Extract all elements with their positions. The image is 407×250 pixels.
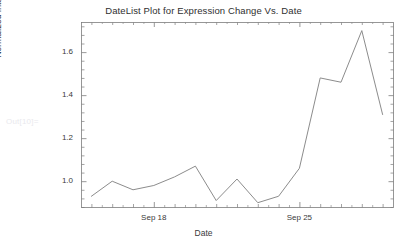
y-axis-tick-label: 1.0 [51, 176, 73, 185]
y-axis-tick-label: 1.2 [51, 133, 73, 142]
x-axis-tick-label: Sep 18 [131, 213, 177, 222]
y-axis-title: Normalized Intensity [0, 0, 3, 79]
notebook-output-cell: Out[10]= DateList Plot for Expression Ch… [0, 0, 407, 250]
chart-canvas [0, 0, 407, 250]
data-series-line [91, 31, 382, 203]
x-axis-tick-label: Sep 25 [276, 213, 322, 222]
y-axis-tick-label: 1.4 [51, 90, 73, 99]
x-axis-title: Date [0, 228, 407, 238]
y-axis-ticks [82, 27, 394, 208]
y-axis-tick-label: 1.6 [51, 47, 73, 56]
